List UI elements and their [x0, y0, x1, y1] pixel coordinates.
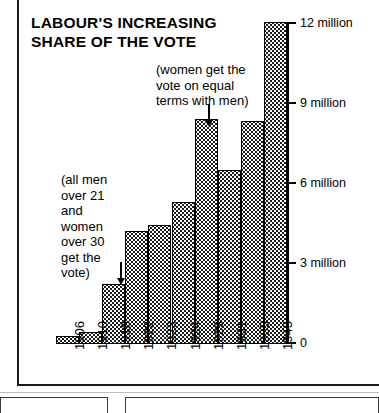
annotation-women-vote-line-2: vote on equal	[156, 78, 248, 94]
footer-divider-rule	[0, 392, 379, 393]
annotation-franchise-1918-line-5: over 30	[61, 234, 107, 250]
y-tick-label-3: 3 million	[300, 257, 346, 269]
bar-1929[interactable]	[195, 119, 218, 344]
annotation-women-vote-arrow-icon	[203, 104, 214, 128]
footer-box-left	[0, 397, 108, 413]
annotation-franchise-1918-line-3: and	[61, 203, 107, 219]
x-label-1931: 1931	[235, 321, 248, 350]
annotation-franchise-1918-arrow-icon	[115, 262, 126, 286]
annotation-women-vote: (women get the vote on equal terms with …	[156, 62, 248, 109]
annotation-franchise-1918-line-7: vote)	[61, 265, 107, 281]
x-label-1935: 1935	[258, 321, 271, 350]
bar-1945[interactable]	[264, 22, 287, 344]
x-label-1929: 1929	[212, 321, 225, 350]
annotation-franchise-1918-line-6: get the	[61, 250, 107, 266]
x-label-1923: 1923	[165, 321, 178, 350]
y-tick-label-12: 12 million	[300, 17, 353, 29]
y-tick-label-9: 9 million	[300, 97, 346, 109]
x-label-1924: 1924	[189, 321, 202, 350]
arrow-head	[117, 278, 125, 285]
annotation-franchise-1918-line-2: over 21	[61, 188, 107, 204]
y-tick-mark-3	[287, 262, 296, 264]
x-label-1918: 1918	[119, 321, 132, 350]
annotation-franchise-1918-line-1: (all men	[61, 172, 107, 188]
y-tick-label-6: 6 million	[300, 177, 346, 189]
x-label-1910: 1910	[96, 321, 109, 350]
footer-box-right	[125, 397, 379, 413]
annotation-franchise-1918-line-4: women	[61, 219, 107, 235]
x-label-1922: 1922	[142, 321, 155, 350]
y-tick-mark-9	[287, 102, 296, 104]
y-tick-mark-6	[287, 182, 296, 184]
y-tick-label-0: 0	[300, 337, 307, 349]
x-label-1945: 1945	[281, 321, 294, 350]
y-tick-mark-12	[287, 22, 296, 24]
x-label-1906: 1906	[73, 321, 86, 350]
annotation-franchise-1918: (all men over 21 and women over 30 get t…	[61, 172, 107, 281]
arrow-head	[205, 120, 213, 127]
annotation-women-vote-line-1: (women get the	[156, 62, 248, 78]
bar-1931[interactable]	[218, 170, 241, 344]
bar-1935[interactable]	[241, 121, 264, 344]
